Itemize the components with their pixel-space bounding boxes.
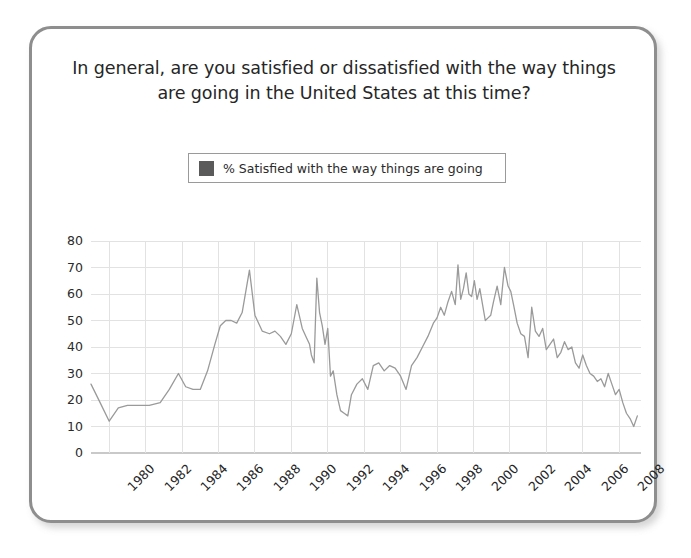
line-chart-svg bbox=[32, 29, 660, 526]
y-tick-label: 30 bbox=[57, 366, 83, 381]
y-tick-label: 0 bbox=[57, 445, 83, 460]
plot-area: 01020304050607080 1980198219841986198819… bbox=[32, 29, 660, 526]
y-tick-label: 80 bbox=[57, 233, 83, 248]
y-tick-label: 40 bbox=[57, 339, 83, 354]
y-tick-label: 50 bbox=[57, 313, 83, 328]
y-tick-label: 60 bbox=[57, 286, 83, 301]
chart-screenshot: In general, are you satisfied or dissati… bbox=[0, 0, 691, 558]
y-tick-label: 70 bbox=[57, 260, 83, 275]
y-tick-label: 20 bbox=[57, 392, 83, 407]
chart-card: In general, are you satisfied or dissati… bbox=[29, 26, 657, 523]
y-tick-label: 10 bbox=[57, 419, 83, 434]
